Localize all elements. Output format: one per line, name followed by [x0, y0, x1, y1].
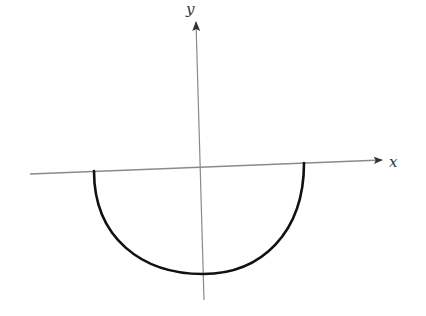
semicircle-curve	[94, 163, 304, 274]
y-axis-label: y	[185, 0, 195, 18]
coordinate-diagram: y x	[0, 0, 426, 316]
y-axis	[196, 22, 204, 300]
x-axis	[30, 160, 382, 174]
x-axis-label: x	[389, 153, 398, 171]
